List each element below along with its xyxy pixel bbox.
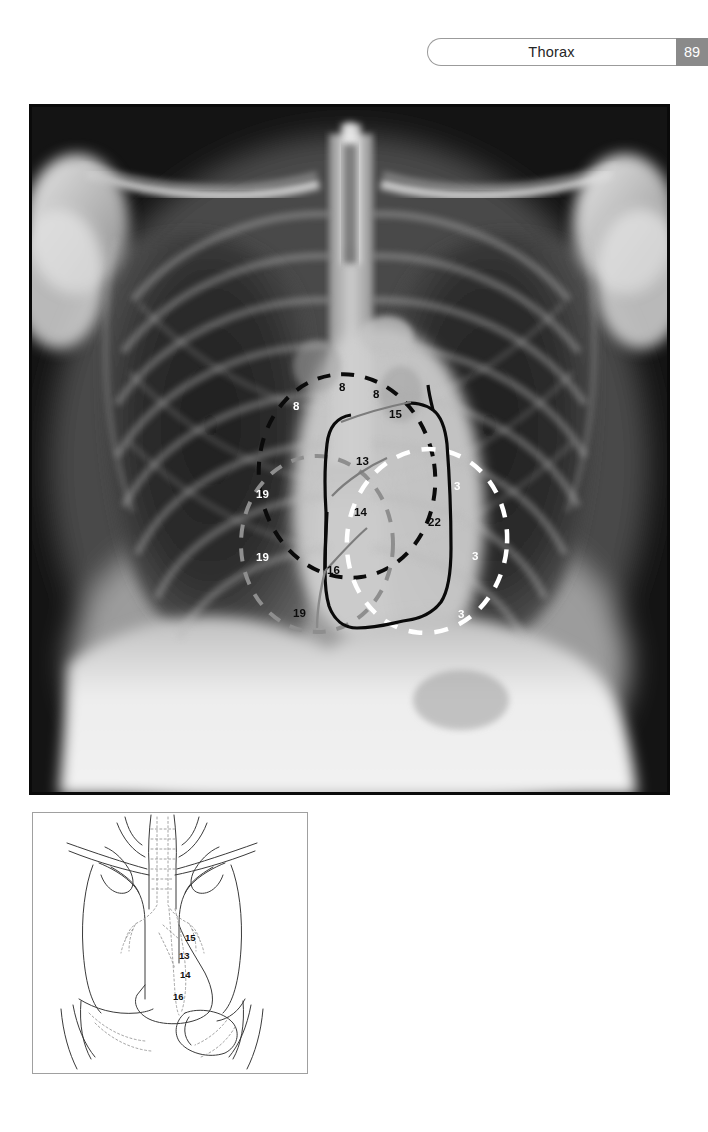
thoracic-line-drawing-figure: 15131416 xyxy=(32,812,308,1074)
radiograph-label-19-a10: 19 xyxy=(256,552,269,564)
radiograph-label-19-a11: 19 xyxy=(293,608,306,620)
radiograph-label-3-a13: 3 xyxy=(472,551,478,563)
radiograph-label-14-a6: 14 xyxy=(354,507,367,519)
radiograph-label-15-a4: 15 xyxy=(389,409,402,421)
radiograph-label-3-a14: 3 xyxy=(458,609,464,621)
thoracic-line-drawing xyxy=(33,813,307,1073)
radiograph-label-19-a9: 19 xyxy=(256,489,269,501)
diagram-label-13-d2: 13 xyxy=(179,951,190,961)
radiograph-label-8-a2: 8 xyxy=(339,382,345,394)
radiograph-label-13-a5: 13 xyxy=(356,456,369,468)
radiograph-label-8-a3: 8 xyxy=(373,389,379,401)
diagram-label-16-d4: 16 xyxy=(173,992,184,1002)
diagram-label-14-d3: 14 xyxy=(180,970,191,980)
page-header: Thorax 89 xyxy=(0,0,708,100)
radiograph-label-22-a8: 22 xyxy=(428,517,441,529)
diagram-label-15-d1: 15 xyxy=(185,933,196,943)
chest-radiograph-image xyxy=(29,104,670,795)
radiograph-label-16-a7: 16 xyxy=(327,565,340,577)
page-number: 89 xyxy=(676,38,708,66)
chest-radiograph-figure: 8881513141622191919333 xyxy=(29,104,670,795)
radiograph-label-3-a12: 3 xyxy=(454,481,460,493)
radiograph-label-8-a1: 8 xyxy=(293,401,299,413)
page-title: Thorax xyxy=(427,38,676,66)
